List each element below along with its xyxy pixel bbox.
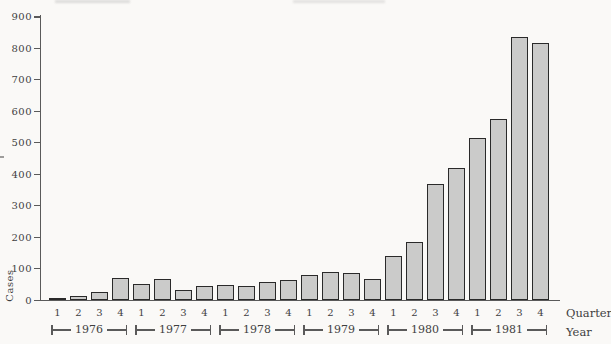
bar-1978-q4 bbox=[280, 280, 297, 300]
x-axis-quarter-caption: Quarter bbox=[566, 306, 611, 320]
y-tick-100 bbox=[34, 268, 40, 269]
year-label-1980: 1980 bbox=[407, 324, 443, 336]
y-axis-title: Cases bbox=[3, 265, 16, 307]
y-tick-label-200: 200 bbox=[2, 231, 32, 244]
y-tick-600 bbox=[34, 111, 40, 112]
year-bracket-1979: 1979 bbox=[303, 324, 379, 336]
scanned-bar-chart-page: 0100200300400500600700800900 12341234123… bbox=[0, 0, 611, 344]
bar-1980-q4 bbox=[448, 168, 465, 300]
bar-1977-q1 bbox=[133, 284, 150, 300]
bar-1980-q1 bbox=[385, 256, 402, 300]
quarter-label-1977-q2: 2 bbox=[155, 307, 171, 319]
bar-1981-q2 bbox=[490, 119, 507, 300]
quarter-label-1978-q1: 1 bbox=[218, 307, 234, 319]
year-bracket-line bbox=[137, 329, 156, 330]
bar-1979-q2 bbox=[322, 272, 339, 300]
cases-by-quarter-bar-chart: 0100200300400500600700800900 12341234123… bbox=[0, 0, 611, 344]
year-label-1978: 1978 bbox=[239, 324, 275, 336]
y-tick-400 bbox=[34, 174, 40, 175]
quarter-label-1979-q1: 1 bbox=[302, 307, 318, 319]
quarter-label-1978-q4: 4 bbox=[281, 307, 297, 319]
y-tick-900 bbox=[34, 16, 40, 17]
bar-1976-q4 bbox=[112, 278, 129, 300]
year-bracket-line bbox=[389, 329, 408, 330]
quarter-label-1980-q1: 1 bbox=[386, 307, 402, 319]
year-bracket-tick bbox=[546, 325, 548, 335]
quarter-label-1980-q2: 2 bbox=[407, 307, 423, 319]
y-tick-200 bbox=[34, 237, 40, 238]
bar-1977-q4 bbox=[196, 286, 213, 300]
year-bracket-line bbox=[473, 329, 492, 330]
bar-1976-q2 bbox=[70, 296, 87, 300]
y-tick-0 bbox=[34, 300, 40, 301]
y-tick-800 bbox=[34, 48, 40, 49]
bar-1980-q2 bbox=[406, 242, 423, 300]
bar-1979-q3 bbox=[343, 273, 360, 300]
bar-1980-q3 bbox=[427, 184, 444, 300]
quarter-label-1979-q2: 2 bbox=[323, 307, 339, 319]
quarter-label-1977-q4: 4 bbox=[197, 307, 213, 319]
quarter-label-1977-q3: 3 bbox=[176, 307, 192, 319]
year-label-1979: 1979 bbox=[323, 324, 359, 336]
quarter-label-1979-q4: 4 bbox=[365, 307, 381, 319]
year-bracket-line bbox=[53, 329, 72, 330]
bar-1978-q1 bbox=[217, 285, 234, 300]
quarter-label-1976-q3: 3 bbox=[92, 307, 108, 319]
quarter-label-1976-q4: 4 bbox=[113, 307, 129, 319]
quarter-label-1980-q4: 4 bbox=[449, 307, 465, 319]
y-tick-label-400: 400 bbox=[2, 168, 32, 181]
bar-1981-q3 bbox=[511, 37, 528, 300]
year-bracket-line bbox=[221, 329, 240, 330]
year-bracket-1981: 1981 bbox=[471, 324, 547, 336]
year-bracket-line bbox=[107, 329, 126, 330]
y-tick-label-300: 300 bbox=[2, 199, 32, 212]
y-tick-700 bbox=[34, 79, 40, 80]
year-bracket-line bbox=[191, 329, 210, 330]
year-label-1976: 1976 bbox=[71, 324, 107, 336]
quarter-label-1979-q3: 3 bbox=[344, 307, 360, 319]
x-axis-line bbox=[40, 300, 560, 301]
quarter-label-1981-q3: 3 bbox=[512, 307, 528, 319]
y-axis-line bbox=[40, 15, 41, 301]
year-bracket-line bbox=[527, 329, 546, 330]
bar-1976-q3 bbox=[91, 292, 108, 300]
bar-1978-q3 bbox=[259, 282, 276, 300]
year-bracket-1976: 1976 bbox=[51, 324, 127, 336]
quarter-label-1977-q1: 1 bbox=[134, 307, 150, 319]
year-label-1981: 1981 bbox=[491, 324, 527, 336]
quarter-label-1981-q2: 2 bbox=[491, 307, 507, 319]
bar-1978-q2 bbox=[238, 286, 255, 300]
quarter-label-1981-q4: 4 bbox=[533, 307, 549, 319]
x-axis-year-caption: Year bbox=[566, 325, 592, 339]
year-bracket-1980: 1980 bbox=[387, 324, 463, 336]
y-tick-label-800: 800 bbox=[2, 42, 32, 55]
year-bracket-line bbox=[305, 329, 324, 330]
y-tick-label-900: 900 bbox=[2, 10, 32, 23]
bar-1979-q1 bbox=[301, 275, 318, 300]
year-label-1977: 1977 bbox=[155, 324, 191, 336]
quarter-label-1981-q1: 1 bbox=[470, 307, 486, 319]
bar-1981-q1 bbox=[469, 138, 486, 300]
quarter-label-1980-q3: 3 bbox=[428, 307, 444, 319]
year-bracket-line bbox=[275, 329, 294, 330]
quarter-label-1976-q1: 1 bbox=[50, 307, 66, 319]
y-tick-300 bbox=[34, 205, 40, 206]
bar-1981-q4 bbox=[532, 43, 549, 300]
quarter-label-1978-q3: 3 bbox=[260, 307, 276, 319]
year-bracket-line bbox=[443, 329, 462, 330]
year-bracket-1978: 1978 bbox=[219, 324, 295, 336]
y-tick-500 bbox=[34, 142, 40, 143]
year-bracket-line bbox=[359, 329, 378, 330]
bar-1977-q3 bbox=[175, 290, 192, 300]
bar-1979-q4 bbox=[364, 279, 381, 300]
year-bracket-tick bbox=[462, 325, 464, 335]
y-tick-label-700: 700 bbox=[2, 73, 32, 86]
bar-1977-q2 bbox=[154, 279, 171, 300]
quarter-label-1978-q2: 2 bbox=[239, 307, 255, 319]
year-bracket-1977: 1977 bbox=[135, 324, 211, 336]
y-tick-label-500: 500 bbox=[2, 136, 32, 149]
year-bracket-tick bbox=[294, 325, 296, 335]
year-bracket-tick bbox=[210, 325, 212, 335]
year-bracket-tick bbox=[126, 325, 128, 335]
bar-1976-q1 bbox=[49, 298, 66, 300]
